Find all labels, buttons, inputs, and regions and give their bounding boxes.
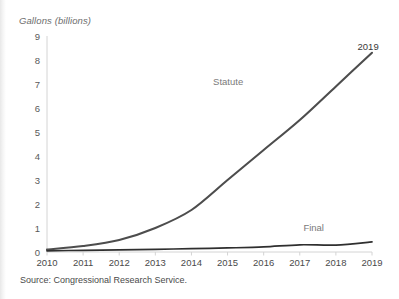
chart-figure: Gallons (billions) 0123456789 2010201120…: [0, 0, 399, 299]
y-tick-label: 1: [22, 223, 40, 234]
x-tick-label: 2017: [283, 257, 317, 268]
y-tick-label: 0: [22, 247, 40, 258]
x-tick-label: 2011: [66, 257, 100, 268]
x-tick-label: 2013: [138, 257, 172, 268]
annotation-final: Final: [303, 222, 324, 233]
source-note: Source: Congressional Research Service.: [20, 275, 187, 285]
x-tick-label: 2012: [102, 257, 136, 268]
y-tick-label: 3: [22, 175, 40, 186]
x-tick-label: 2010: [30, 257, 64, 268]
x-tick-label: 2019: [355, 257, 389, 268]
y-tick-label: 2: [22, 199, 40, 210]
x-tick-label: 2015: [211, 257, 245, 268]
y-tick-label: 4: [22, 151, 40, 162]
series-line-statute: [47, 53, 372, 250]
y-tick-label: 8: [22, 55, 40, 66]
annotation-2019: 2019: [358, 41, 379, 52]
y-tick-label: 9: [22, 31, 40, 42]
x-axis-ticks: [47, 252, 372, 256]
y-tick-label: 6: [22, 103, 40, 114]
x-tick-label: 2018: [319, 257, 353, 268]
annotation-statute: Statute: [213, 76, 243, 87]
y-tick-label: 7: [22, 79, 40, 90]
x-tick-label: 2016: [247, 257, 281, 268]
plot-area: [0, 0, 399, 299]
y-tick-label: 5: [22, 127, 40, 138]
x-tick-label: 2014: [174, 257, 208, 268]
